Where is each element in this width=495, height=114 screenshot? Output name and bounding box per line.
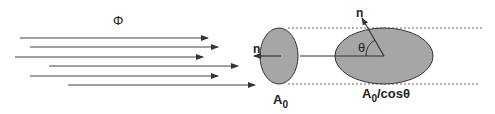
angle-label: θ: [358, 40, 365, 55]
flux-arrows: [15, 38, 255, 85]
area-large-label: A0/cosθ: [362, 86, 410, 104]
flux-diagram: [0, 0, 495, 114]
normal-label-small: n: [253, 42, 260, 56]
flux-label: Φ: [113, 13, 123, 28]
normal-label-large: n: [356, 6, 363, 20]
area-small-label: A0: [273, 92, 288, 110]
